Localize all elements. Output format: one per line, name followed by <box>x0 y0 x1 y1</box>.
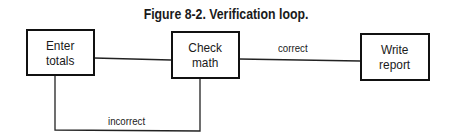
edge-label-incorrect: incorrect <box>108 115 145 127</box>
node-label: math <box>189 55 223 70</box>
node-write-report: Writereport <box>360 33 430 81</box>
node-label: Enter <box>46 38 74 53</box>
node-enter-totals: Entertotals <box>26 29 95 76</box>
node-label: Write <box>379 42 410 57</box>
node-label: totals <box>46 53 74 68</box>
node-label: report <box>379 57 410 72</box>
node-check-math: Checkmath <box>171 31 240 79</box>
node-label: Check <box>189 40 223 55</box>
edge-label-correct: correct <box>278 42 308 54</box>
